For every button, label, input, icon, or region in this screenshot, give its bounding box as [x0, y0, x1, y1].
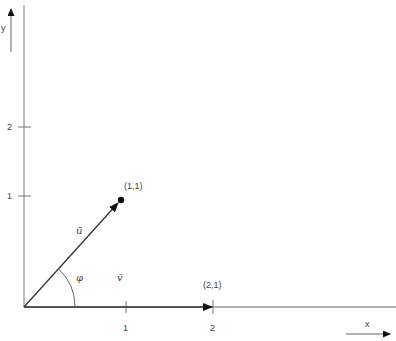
vector-v-label: v̄ [117, 272, 123, 283]
y-tick-2-label: 2 [7, 122, 12, 132]
x-tick-1-label: 1 [123, 323, 128, 333]
angle-phi-label: φ [76, 272, 83, 283]
vector-u-label: ū [76, 225, 82, 236]
y-axis-label: y [1, 23, 6, 33]
x-axis-label: x [365, 319, 370, 329]
vector-u [24, 203, 118, 307]
y-tick-1-label: 1 [7, 191, 12, 201]
vector-diagram: y x 2 1 1 2 (1,1) ū (2,1) v̄ φ [0, 0, 396, 341]
angle-arc [59, 269, 76, 307]
point-1-1 [118, 197, 124, 203]
point-u-label: (1,1) [124, 181, 143, 191]
point-v-label: (2,1) [203, 280, 222, 290]
x-tick-2-label: 2 [210, 323, 215, 333]
